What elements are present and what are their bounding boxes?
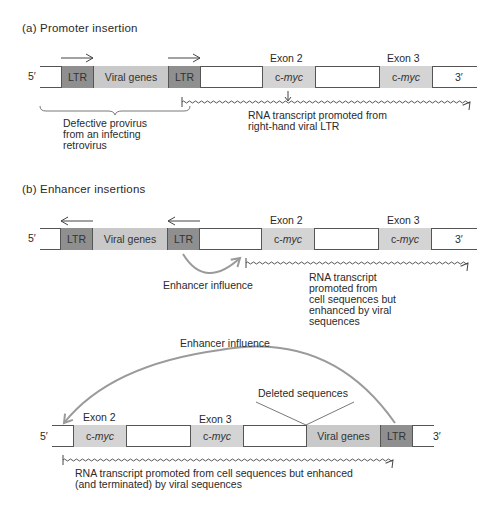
- gene-prefix: c-: [392, 71, 401, 83]
- panel-a-title: (a) Promoter insertion: [22, 22, 138, 34]
- enhancer-influence-curve-b: [183, 254, 240, 273]
- caption-line: retrovirus: [63, 140, 147, 151]
- five-prime-label-a: 5′: [28, 71, 36, 82]
- five-prime-label-c: 5′: [40, 431, 48, 442]
- ltr-left-b: LTR: [60, 228, 93, 250]
- caption-line: right-hand viral LTR: [248, 121, 387, 132]
- enhancer-label-c: Enhancer influence: [180, 338, 270, 349]
- exon2-box-a: c-myc: [262, 66, 316, 88]
- exon3-box-b: c-myc: [378, 228, 432, 250]
- exon2-box-b: c-myc: [261, 228, 315, 250]
- gene-prefix: c-: [274, 233, 283, 245]
- gene-prefix: c-: [86, 430, 95, 442]
- panel-b-title: (b) Enhancer insertions: [22, 183, 146, 195]
- three-prime-label-a: 3′: [455, 72, 463, 83]
- three-prime-label-c: 3′: [433, 431, 441, 442]
- exon2-label-a: Exon 2: [270, 53, 303, 64]
- down-arrow-exon2: [285, 91, 291, 101]
- three-prime-label-b: 3′: [455, 234, 463, 245]
- transcript-caption-b: RNA transcript promoted from cell sequen…: [309, 272, 396, 327]
- caption-line: (and terminated) by viral sequences: [75, 479, 353, 490]
- exon3-box-a: c-myc: [379, 66, 433, 88]
- ltr-right-a: LTR: [168, 66, 201, 88]
- exon2-label-c: Exon 2: [83, 412, 116, 423]
- exon2-box-c: c-myc: [73, 425, 127, 447]
- ltr-c: LTR: [380, 425, 413, 447]
- provirus-caption: Defective provirus from an infecting ret…: [63, 118, 147, 151]
- exon3-box-c: c-myc: [190, 425, 244, 447]
- gene-prefix: c-: [391, 233, 400, 245]
- deleted-sequences-wedge: [256, 402, 354, 425]
- gene-prefix: c-: [203, 430, 212, 442]
- gene-prefix: c-: [275, 71, 284, 83]
- viral-genes-a: Viral genes: [93, 66, 169, 88]
- gene-name: myc: [212, 430, 231, 442]
- rna-transcript-wave-b: [246, 258, 468, 268]
- exon3-label-c: Exon 3: [199, 414, 232, 425]
- enhancer-label-b: Enhancer influence: [163, 280, 253, 291]
- five-prime-label-b: 5′: [28, 233, 36, 244]
- gene-name: myc: [283, 233, 302, 245]
- gene-name: myc: [400, 233, 419, 245]
- exon2-label-b: Exon 2: [270, 215, 303, 226]
- viral-genes-b: Viral genes: [92, 228, 168, 250]
- viral-genes-c: Viral genes: [306, 425, 381, 447]
- ltr-right-b: LTR: [167, 228, 200, 250]
- ltr-left-a: LTR: [61, 66, 94, 88]
- gene-name: myc: [95, 430, 114, 442]
- deleted-sequences-label: Deleted sequences: [258, 388, 348, 399]
- transcript-caption-c: RNA transcript promoted from cell sequen…: [75, 468, 353, 490]
- provirus-brace: [40, 106, 190, 115]
- transcript-caption-a: RNA transcript promoted from right-hand …: [248, 110, 387, 132]
- rna-transcript-wave-a: [182, 97, 470, 107]
- rna-transcript-wave-c: [63, 455, 393, 465]
- exon3-label-a: Exon 3: [387, 53, 420, 64]
- gene-name: myc: [284, 71, 303, 83]
- exon3-label-b: Exon 3: [387, 215, 420, 226]
- gene-name: myc: [401, 71, 420, 83]
- caption-line: sequences: [309, 316, 396, 327]
